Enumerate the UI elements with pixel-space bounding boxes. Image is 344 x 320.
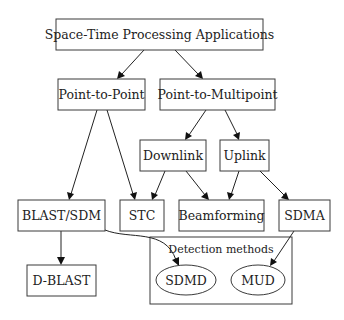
node-label: Downlink (143, 148, 203, 163)
node-label: SDMD (165, 273, 206, 288)
node-label: SDMA (284, 208, 325, 223)
edge-sdma-mud (274, 231, 294, 261)
node-label: D-BLAST (33, 273, 92, 288)
node-label: Uplink (223, 148, 266, 163)
edge-root-p2p (122, 50, 144, 74)
edge-downlink-beam (186, 171, 205, 195)
arrowhead (57, 257, 65, 265)
node-mud: MUD (231, 265, 285, 295)
node-point-to-multipoint: Point-to-Multipoint (158, 79, 278, 110)
node-stc: STC (120, 200, 164, 231)
arrowhead (67, 192, 74, 200)
node-uplink: Uplink (220, 140, 269, 171)
edge-p2mp-uplink (225, 110, 237, 134)
arrowhead (201, 192, 209, 200)
node-downlink: Downlink (140, 140, 206, 171)
arrowhead (270, 258, 277, 266)
arrowhead (185, 132, 192, 140)
edge-uplink-sdma (260, 171, 284, 195)
edge-uplink-beam (231, 171, 239, 195)
arrowhead (130, 192, 137, 200)
arrowhead (227, 192, 234, 200)
diagram-canvas: Detection methods (0, 0, 344, 320)
node-sdmd: SDMD (156, 265, 216, 295)
node-sdma: SDMA (279, 200, 330, 231)
edge-p2p-stc (107, 110, 133, 194)
node-label: BLAST/SDM (22, 208, 101, 223)
arrowhead (151, 192, 158, 200)
node-label: Beamforming (179, 208, 265, 223)
edge-p2mp-downlink (189, 110, 206, 135)
node-beamforming: Beamforming (179, 200, 265, 231)
node-root: Space-Time Processing Applications (45, 19, 274, 50)
edge-blast-sdmd (105, 230, 176, 260)
node-d-blast: D-BLAST (27, 265, 96, 296)
node-label: STC (129, 208, 155, 223)
edge-p2p-blast (71, 110, 97, 194)
node-label: Point-to-Multipoint (158, 87, 278, 102)
edge-root-p2mp (175, 50, 198, 74)
node-label: Point-to-Point (59, 87, 145, 102)
node-blast-sdm: BLAST/SDM (18, 200, 105, 231)
cluster-label: Detection methods (168, 243, 274, 256)
edge-downlink-stc (155, 171, 165, 195)
node-label: Space-Time Processing Applications (45, 27, 274, 42)
node-point-to-point: Point-to-Point (58, 79, 145, 110)
node-label: MUD (241, 273, 274, 288)
